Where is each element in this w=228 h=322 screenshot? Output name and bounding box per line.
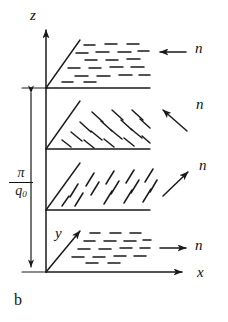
x-axis-label: x: [197, 265, 204, 280]
director-label-4: n: [195, 238, 203, 253]
liquid-crystal-helix-diagram: [0, 0, 228, 322]
y-axis-label: y: [55, 226, 62, 241]
pitch-denominator: q0: [6, 184, 36, 199]
layer-3-plane: [46, 163, 188, 210]
layer-2-plane: [46, 101, 187, 149]
layer-1-plane: [46, 40, 186, 88]
pitch-denominator-subscript: 0: [22, 189, 27, 199]
layer-2-director-arrow: [163, 110, 187, 131]
layer-2-directors: [62, 110, 150, 148]
director-label-1: n: [195, 41, 203, 56]
pitch-numerator: π: [6, 166, 36, 181]
pitch-label: π q0: [6, 166, 36, 198]
layer-3-directors: [62, 169, 157, 206]
director-label-2: n: [196, 97, 204, 112]
layer-3-director-arrow: [163, 172, 188, 196]
layer-4-plane: [72, 233, 186, 263]
layer-4-directors: [72, 233, 151, 263]
layer-1-directors: [62, 44, 150, 82]
director-label-3: n: [199, 158, 207, 173]
y-axis: [46, 231, 80, 272]
panel-label: b: [14, 292, 22, 308]
figure-panel-b: z x y π q0 n n n n b: [0, 0, 228, 322]
z-axis-label: z: [30, 8, 36, 23]
